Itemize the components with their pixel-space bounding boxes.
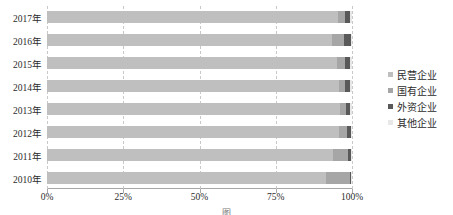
- legend-swatch-icon: [388, 88, 393, 93]
- legend-item[interactable]: 其他企业: [388, 114, 453, 130]
- gridline-100: [352, 6, 353, 189]
- bar-segment: [326, 172, 350, 184]
- bar-segment: [333, 149, 348, 161]
- bar-segment: [47, 103, 340, 115]
- bar-row: [47, 34, 352, 46]
- figure-caption: 图: [0, 208, 453, 215]
- bar-segment: [351, 34, 352, 46]
- legend-label: 国有企业: [397, 83, 437, 98]
- bar-row: [47, 172, 352, 184]
- bar-segment: [47, 172, 326, 184]
- x-axis-tick-label: 0%: [41, 192, 54, 202]
- legend-label: 民营企业: [397, 67, 437, 82]
- x-axis-tick-label: 75%: [267, 192, 284, 202]
- bar-segment: [350, 103, 352, 115]
- bar-row: [47, 126, 352, 138]
- y-axis-label: 2017年: [13, 14, 42, 24]
- y-axis-label: 2012年: [13, 129, 42, 139]
- bar-row: [47, 80, 352, 92]
- legend-item[interactable]: 外资企业: [388, 98, 453, 114]
- legend-swatch-icon: [388, 72, 393, 77]
- x-axis-tick-label: 50%: [191, 192, 208, 202]
- bar-segment: [350, 11, 352, 23]
- x-axis-tick-label: 25%: [115, 192, 132, 202]
- legend-item[interactable]: 国有企业: [388, 82, 453, 98]
- bar-segment: [351, 149, 352, 161]
- bar-row: [47, 57, 352, 69]
- legend-item[interactable]: 民营企业: [388, 66, 453, 82]
- y-axis-label: 2014年: [13, 83, 42, 93]
- bar-segment: [344, 34, 351, 46]
- y-axis-label: 2013年: [13, 106, 42, 116]
- plot-area: [47, 6, 352, 189]
- legend-label: 外资企业: [397, 99, 437, 114]
- bar-segment: [47, 126, 339, 138]
- y-axis-label: 2010年: [13, 175, 42, 185]
- figure-caption-text: 图: [0, 208, 453, 215]
- bar-segment: [47, 57, 337, 69]
- bar-segment: [332, 34, 344, 46]
- bar-segment: [338, 11, 345, 23]
- x-axis-tick-labels: 0%25%50%75%100%: [0, 192, 453, 206]
- bar-segment: [337, 57, 345, 69]
- bar-segment: [47, 34, 332, 46]
- legend-swatch-icon: [388, 120, 393, 125]
- bar-segment: [339, 126, 348, 138]
- bar-row: [47, 149, 352, 161]
- y-axis-labels: 2017年2016年2015年2014年2013年2012年2011年2010年: [0, 8, 44, 186]
- legend-label: 其他企业: [397, 115, 437, 130]
- bar-segment: [350, 80, 352, 92]
- y-axis-label: 2016年: [13, 37, 42, 47]
- stacked-bar-chart: 2017年2016年2015年2014年2013年2012年2011年2010年…: [0, 0, 453, 215]
- bar-segment: [351, 126, 352, 138]
- y-axis-label: 2015年: [13, 60, 42, 70]
- legend-swatch-icon: [388, 104, 393, 109]
- chart-legend: 民营企业国有企业外资企业其他企业: [388, 66, 453, 130]
- bar-segment: [47, 80, 339, 92]
- bar-row: [47, 103, 352, 115]
- bar-segment: [47, 149, 333, 161]
- bar-row: [47, 11, 352, 23]
- bar-segment: [47, 11, 338, 23]
- bar-segment: [351, 172, 352, 184]
- bar-segment: [350, 57, 352, 69]
- x-axis-tick-label: 100%: [341, 192, 363, 202]
- y-axis-label: 2011年: [13, 152, 42, 162]
